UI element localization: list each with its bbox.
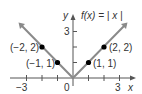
tick-label-0: 0 (64, 82, 70, 93)
y-axis-arrow-icon (71, 14, 76, 20)
label-point-neg1-1: (−1, 1) (26, 58, 55, 69)
y-axis-label: y (62, 10, 69, 21)
point-neg2-2 (39, 44, 44, 49)
point-2-2 (101, 44, 106, 49)
x-axis-label: x (127, 82, 134, 93)
tick-label-3: 3 (115, 82, 121, 93)
point-1-1 (86, 60, 91, 65)
x-axis-arrow-icon (130, 76, 136, 81)
label-point-neg2-2: (−2, 2) (10, 42, 39, 53)
point-neg1-1 (55, 60, 60, 65)
tick-label-neg3: −3 (16, 82, 28, 93)
label-point-2-2: (2, 2) (109, 42, 132, 53)
tick-label-y3: 3 (64, 26, 70, 37)
y-ticks (73, 32, 77, 63)
function-label: f(x) = | x | (81, 10, 123, 21)
label-point-1-1: (1, 1) (93, 58, 116, 69)
abs-value-graph: (−2, 2) (−1, 1) (1, 1) (2, 2) −3 0 3 x 3… (0, 0, 142, 94)
